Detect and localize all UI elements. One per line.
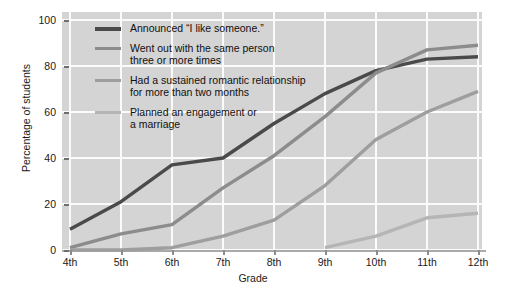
x-tick-label-5th: 5th	[114, 256, 129, 268]
y-tick-label-0: 0	[12, 244, 56, 256]
legend-swatch-icon-2	[95, 79, 121, 83]
legend-swatch-icon-0	[95, 27, 121, 31]
x-tick-label-4th: 4th	[63, 256, 78, 268]
y-tick-label-60: 60	[12, 106, 56, 118]
x-tick-label-7th: 7th	[216, 256, 231, 268]
legend-item-0[interactable]: Announced “I like someone.”	[95, 22, 306, 35]
y-tick-mark-40	[64, 158, 69, 160]
x-tick-mark-12th	[478, 250, 480, 255]
y-axis-ticks: 020406080100	[8, 0, 56, 292]
legend-swatch-icon-3	[95, 111, 121, 115]
x-tick-label-12th: 12th	[468, 256, 488, 268]
series-line-3	[325, 213, 478, 248]
y-tick-label-20: 20	[12, 198, 56, 210]
legend-item-1[interactable]: Went out with the same person three or m…	[95, 42, 306, 67]
x-tick-label-11th: 11th	[417, 256, 437, 268]
x-tick-mark-6th	[172, 250, 174, 255]
x-tick-label-6th: 6th	[165, 256, 180, 268]
y-axis-title: Percentage of students	[20, 48, 32, 188]
x-tick-label-8th: 8th	[267, 256, 282, 268]
legend-item-2[interactable]: Had a sustained romantic relationship fo…	[95, 74, 306, 99]
chart-figure: 020406080100 4th5th6th7th8th9th10th11th1…	[0, 0, 506, 292]
x-tick-label-10th: 10th	[366, 256, 386, 268]
y-tick-mark-80	[64, 66, 69, 68]
legend-label-1: Went out with the same person three or m…	[130, 42, 275, 67]
y-tick-mark-60	[64, 112, 69, 114]
y-tick-label-100: 100	[12, 14, 56, 26]
legend-label-0: Announced “I like someone.”	[130, 22, 264, 35]
x-axis-title: Grade	[0, 272, 506, 284]
y-tick-label-80: 80	[12, 60, 56, 72]
legend-swatch-icon-1	[95, 47, 121, 51]
x-tick-mark-9th	[325, 250, 327, 255]
x-tick-mark-4th	[70, 250, 72, 255]
x-tick-mark-5th	[121, 250, 123, 255]
x-tick-label-9th: 9th	[318, 256, 333, 268]
legend-label-3: Planned an engagement or a marriage	[130, 106, 257, 131]
y-tick-mark-20	[64, 204, 69, 206]
chart-legend: Announced “I like someone.”Went out with…	[95, 22, 306, 138]
legend-label-2: Had a sustained romantic relationship fo…	[130, 74, 306, 99]
x-tick-mark-10th	[376, 250, 378, 255]
x-tick-mark-7th	[223, 250, 225, 255]
y-tick-mark-0	[64, 250, 69, 252]
y-tick-label-40: 40	[12, 152, 56, 164]
legend-item-3[interactable]: Planned an engagement or a marriage	[95, 106, 306, 131]
x-tick-mark-8th	[274, 250, 276, 255]
x-tick-mark-11th	[427, 250, 429, 255]
y-tick-mark-100	[64, 20, 69, 22]
